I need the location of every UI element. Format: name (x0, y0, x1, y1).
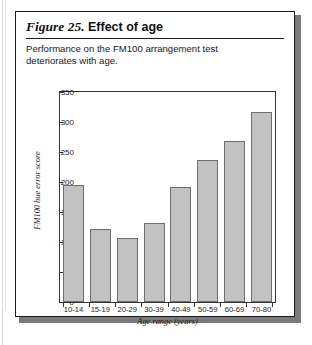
figure-title: Figure 25. Effect of age (26, 19, 284, 35)
bar (144, 223, 165, 302)
bar (90, 229, 111, 302)
bar (117, 238, 138, 302)
x-tick-label: 50-59 (195, 305, 220, 314)
bar (170, 187, 191, 302)
figure-caption: Performance on the FM100 arrangement tes… (26, 43, 284, 68)
bar-series (60, 92, 275, 302)
x-tick-label: 30-39 (142, 305, 167, 314)
bar (63, 185, 84, 302)
x-tick-label: 15-19 (88, 305, 113, 314)
page-edge-artifact-secondary (5, 0, 6, 310)
figure-name: Effect of age (88, 20, 163, 34)
x-tick-label: 70-80 (249, 305, 274, 314)
x-axis-tick-labels: 10-1415-1920-2930-3940-4950-5960-6970-80 (60, 305, 275, 314)
bar (197, 160, 218, 302)
figure-number: Figure 25. (26, 19, 85, 34)
figure-header: Figure 25. Effect of age Performance on … (16, 12, 294, 68)
x-tick-label: 20-29 (115, 305, 140, 314)
title-divider (26, 38, 284, 39)
x-tick-label: 40-49 (168, 305, 193, 314)
x-tick-label: 10-14 (61, 305, 86, 314)
bar-chart: FM100 hue error score 050100150200250300… (16, 74, 296, 318)
bar (224, 141, 245, 302)
x-axis-label: Age range (years) (59, 317, 276, 326)
figure-card: Figure 25. Effect of age Performance on … (15, 11, 295, 317)
page-edge-artifact (2, 0, 3, 345)
bar (251, 112, 272, 302)
x-tick-label: 60-69 (222, 305, 247, 314)
